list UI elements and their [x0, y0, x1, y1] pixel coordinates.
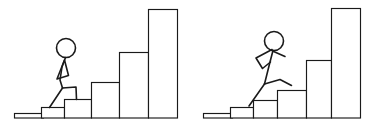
left-panel	[15, 10, 178, 119]
left-bar-1	[42, 108, 65, 119]
right-bar-2	[254, 101, 278, 119]
left-bar-5	[149, 10, 178, 119]
left-bar-2	[65, 100, 92, 119]
left-ground-strip	[15, 114, 44, 119]
right-panel	[204, 9, 361, 119]
left-bar-4	[120, 53, 149, 119]
figure-front-arm	[273, 51, 286, 57]
right-bar-3	[278, 91, 307, 119]
figure-torso	[265, 51, 274, 85]
right-bar-1	[231, 108, 254, 119]
right-bar-4	[307, 61, 332, 119]
left-bar-3	[92, 83, 120, 119]
figure-head-icon	[265, 32, 284, 51]
figure-bent-arm	[57, 60, 69, 79]
right-ground-strip	[204, 114, 233, 119]
figure-back-leg	[50, 88, 63, 108]
stick-figure-climbing	[50, 39, 77, 108]
figure-front-leg	[63, 87, 77, 100]
figure-front-leg	[265, 80, 292, 86]
illustration-canvas	[0, 0, 371, 131]
right-bar-5	[332, 9, 361, 119]
figure-head-icon	[57, 39, 76, 58]
scene-svg	[0, 0, 371, 131]
